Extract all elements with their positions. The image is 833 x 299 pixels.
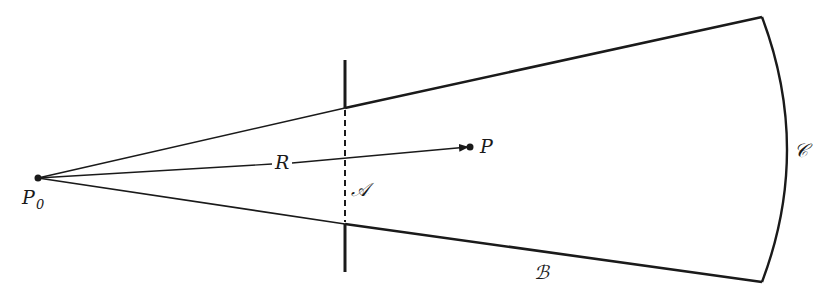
surface-c-arc (762, 17, 787, 282)
label-p0: P (21, 186, 36, 208)
lower-ray (38, 178, 345, 224)
surface-b-upper (345, 17, 762, 108)
vector-r-left (38, 164, 272, 178)
vector-r-right (292, 147, 468, 163)
diffraction-diagram: P 0 P R 𝒜 ℬ 𝒞 (0, 0, 833, 299)
observation-point-p (467, 144, 474, 151)
label-p0-subscript: 0 (36, 197, 44, 212)
surface-b-lower (345, 224, 762, 282)
label-b: ℬ (534, 261, 551, 283)
label-p: P (479, 135, 494, 157)
label-a: 𝒜 (351, 178, 375, 200)
label-r: R (274, 151, 289, 173)
upper-ray (38, 108, 345, 178)
label-c: 𝒞 (794, 139, 813, 161)
source-point-p0 (35, 175, 42, 182)
